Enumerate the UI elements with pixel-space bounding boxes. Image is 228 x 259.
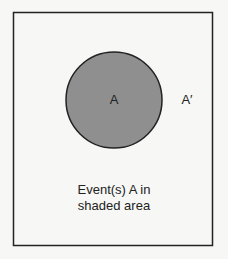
venn-diagram: A A′ Event(s) A in shaded area (0, 0, 228, 259)
caption-line-1: Event(s) A in (78, 182, 151, 197)
event-a-label: A (110, 92, 119, 107)
caption-line-2: shaded area (78, 198, 151, 213)
complement-label: A′ (181, 92, 193, 107)
